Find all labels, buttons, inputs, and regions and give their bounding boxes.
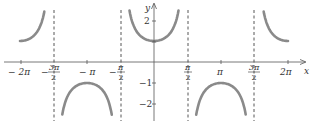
svg-text:3π: 3π xyxy=(49,63,60,72)
x-tick-neg-2pi: − 2π xyxy=(8,67,31,77)
x-tick-neg-pi-2: − π 2 xyxy=(109,63,125,82)
svg-text:π: π xyxy=(184,63,191,72)
secant-branch xyxy=(196,83,246,115)
svg-text:−: − xyxy=(109,67,117,77)
secant-graph: y x 2 −1 −2 − 2π − 3π 2 − π − π 2 π 2 π … xyxy=(0,0,314,121)
x-tick-2pi: 2π xyxy=(279,67,293,77)
y-tick-neg-2: −2 xyxy=(139,99,152,109)
y-tick-neg-1: −1 xyxy=(139,78,152,88)
x-tick-pi: π xyxy=(216,67,224,77)
svg-text:2: 2 xyxy=(186,73,191,82)
secant-branch xyxy=(264,12,288,41)
y-tick-2: 2 xyxy=(144,16,150,26)
secant-branch xyxy=(62,83,112,115)
svg-text:3π: 3π xyxy=(249,63,260,72)
svg-text:2: 2 xyxy=(51,73,56,82)
svg-text:π: π xyxy=(117,63,124,72)
svg-text:2: 2 xyxy=(252,73,257,82)
x-tick-pi-2: π 2 xyxy=(184,63,192,82)
x-tick-neg-3pi-2: − 3π 2 xyxy=(41,63,60,82)
tick-marks xyxy=(21,21,288,104)
x-tick-3pi-2: 3π 2 xyxy=(248,63,260,82)
x-axis-label: x xyxy=(304,66,309,76)
svg-text:2: 2 xyxy=(119,73,124,82)
secant-branch xyxy=(20,12,44,41)
x-tick-neg-pi: − π xyxy=(79,67,96,77)
y-axis-label: y xyxy=(144,3,151,13)
svg-text:−: − xyxy=(41,67,49,77)
